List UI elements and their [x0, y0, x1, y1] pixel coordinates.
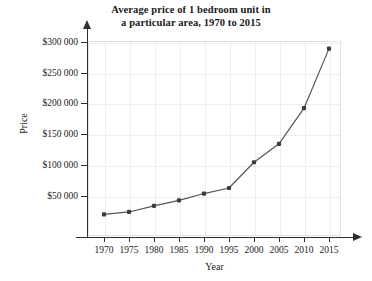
data-point-marker	[277, 142, 281, 146]
data-point-marker	[152, 204, 156, 208]
data-point-marker	[102, 212, 106, 216]
data-point-marker	[202, 191, 206, 195]
data-point-marker	[227, 186, 231, 190]
series-line	[104, 49, 329, 215]
data-series-layer	[0, 0, 372, 281]
data-point-marker	[177, 198, 181, 202]
data-point-marker	[327, 47, 331, 51]
data-point-marker	[302, 106, 306, 110]
chart-page: Average price of 1 bedroom unit in a par…	[0, 0, 372, 281]
data-point-marker	[252, 160, 256, 164]
data-point-marker	[127, 210, 131, 214]
